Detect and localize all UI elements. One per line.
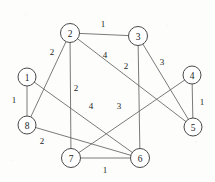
edge-weight-7-6: 1 xyxy=(103,165,108,175)
edge-3-6 xyxy=(138,46,140,149)
edge-weight-2-3: 1 xyxy=(101,19,106,29)
graph-canvas: 12345678 122423142131 xyxy=(0,0,215,182)
node-1[interactable]: 1 xyxy=(18,68,36,86)
node-2[interactable]: 2 xyxy=(61,24,80,43)
node-3[interactable]: 3 xyxy=(129,27,148,46)
edge-weight-2-7: 2 xyxy=(74,83,79,93)
node-label-7: 7 xyxy=(69,154,74,164)
node-label-3: 3 xyxy=(136,32,141,42)
node-4[interactable]: 4 xyxy=(183,66,201,84)
edge-7-4 xyxy=(79,80,185,153)
graph-diagram: 12345678 122423142131 xyxy=(0,0,215,182)
edge-weight-4-5: 1 xyxy=(200,97,205,107)
node-6[interactable]: 6 xyxy=(131,149,150,168)
node-label-5: 5 xyxy=(191,123,196,133)
node-label-4: 4 xyxy=(190,71,195,81)
edge-2-7 xyxy=(70,43,71,149)
node-label-2: 2 xyxy=(68,29,73,39)
edge-1-6 xyxy=(34,82,132,152)
edge-4-5 xyxy=(192,84,193,118)
edge-2-3 xyxy=(79,33,128,35)
edge-weight-3-6: 2 xyxy=(124,61,129,71)
edge-weight-1-8: 1 xyxy=(12,95,17,105)
edge-weight-2-5: 4 xyxy=(103,50,108,60)
node-label-6: 6 xyxy=(138,154,143,164)
edge-weight-1-6: 4 xyxy=(89,101,94,111)
edge-2-5 xyxy=(78,39,186,122)
node-label-8: 8 xyxy=(25,121,30,131)
node-8[interactable]: 8 xyxy=(18,116,36,134)
node-label-1: 1 xyxy=(25,73,30,83)
edge-weight-3-5: 3 xyxy=(160,57,165,67)
node-7[interactable]: 7 xyxy=(62,149,81,168)
edge-weight-7-4: 3 xyxy=(117,101,122,111)
edge-weight-2-8: 2 xyxy=(50,47,55,57)
node-5[interactable]: 5 xyxy=(184,118,202,136)
edge-weight-8-6: 2 xyxy=(40,136,45,146)
